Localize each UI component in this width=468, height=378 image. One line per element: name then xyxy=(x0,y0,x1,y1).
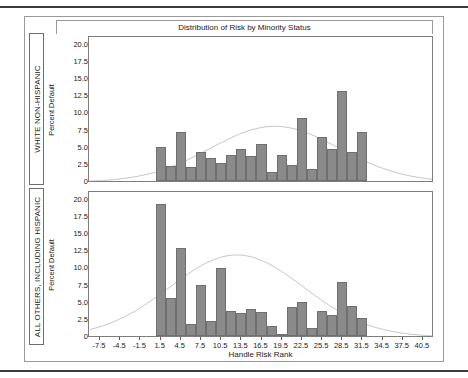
y-tick-label: 10.0 xyxy=(73,263,88,272)
histogram-bar xyxy=(236,149,246,181)
page-rule-top xyxy=(0,6,468,8)
x-tick-mark xyxy=(281,337,282,340)
x-tick-label: 16.5 xyxy=(253,341,268,350)
x-tick-label: 4.5 xyxy=(175,341,185,350)
x-tick-mark xyxy=(321,337,322,340)
plot-panel-white-non-hispanic xyxy=(88,36,433,182)
y-axis-title-text: Percent Default xyxy=(47,239,56,291)
histogram-bar xyxy=(337,282,347,336)
y-axis-ticks-bottom: 02.55.07.510.012.515.017.520.0 xyxy=(56,191,88,337)
x-tick-label: -1.5 xyxy=(133,341,146,350)
histogram-bar xyxy=(317,137,327,181)
y-tick-label: 2.5 xyxy=(78,314,88,323)
histogram-bar xyxy=(216,163,226,182)
x-tick-mark xyxy=(139,337,140,340)
x-tick-label: 40.5 xyxy=(415,341,430,350)
x-tick-label: 25.5 xyxy=(314,341,329,350)
y-axis-title-text: Percent Default xyxy=(47,84,56,136)
x-tick-label: 31.5 xyxy=(354,341,369,350)
y-tick-label: 10.0 xyxy=(73,108,88,117)
histogram-bar xyxy=(267,326,277,336)
y-tick-label: 15.0 xyxy=(73,229,88,238)
x-tick-mark xyxy=(382,337,383,340)
x-axis-title: Handle Risk Rank xyxy=(88,350,433,359)
x-tick-mark xyxy=(200,337,201,340)
histogram-bar xyxy=(287,165,297,181)
x-tick-label: 37.5 xyxy=(394,341,409,350)
x-tick-label: -4.5 xyxy=(113,341,126,350)
histogram-bar xyxy=(246,309,256,336)
histogram-bar xyxy=(347,152,357,181)
histogram-bar xyxy=(307,328,317,336)
histogram-bar xyxy=(206,321,216,336)
histogram-bar xyxy=(186,167,196,181)
histogram-bar xyxy=(267,172,277,181)
histogram-bar xyxy=(206,158,216,181)
histogram-bar xyxy=(156,204,166,336)
x-tick-label: 22.5 xyxy=(294,341,309,350)
x-tick-mark xyxy=(240,337,241,340)
histogram-bar xyxy=(196,152,206,181)
histogram-bar xyxy=(256,312,266,336)
histogram-bar xyxy=(156,147,166,181)
x-tick-mark xyxy=(402,337,403,340)
x-tick-mark xyxy=(160,337,161,340)
x-tick-mark xyxy=(180,337,181,340)
x-tick-mark xyxy=(99,337,100,340)
x-tick-label: 19.5 xyxy=(273,341,288,350)
histogram-bar xyxy=(327,315,337,336)
y-tick-label: 7.5 xyxy=(78,125,88,134)
histogram-bar xyxy=(176,132,186,181)
x-tick-mark xyxy=(301,337,302,340)
histogram-bar xyxy=(357,132,367,181)
x-tick-mark xyxy=(261,337,262,340)
y-tick-label: 2.5 xyxy=(78,159,88,168)
x-tick-label: 7.5 xyxy=(195,341,205,350)
chart-screenshot: Distribution of Risk by Minority Status … xyxy=(0,0,468,378)
histogram-bar xyxy=(327,149,337,181)
histogram-bar xyxy=(216,268,226,336)
y-tick-label: 5.0 xyxy=(78,297,88,306)
histogram-bar xyxy=(236,313,246,336)
histogram-bar xyxy=(317,311,327,336)
histogram-bar xyxy=(226,311,236,336)
plot-area-top xyxy=(89,37,432,181)
y-tick-label: 12.5 xyxy=(73,246,88,255)
histogram-bar xyxy=(196,285,206,336)
plot-panel-all-others xyxy=(88,191,433,337)
chart-title-bar: Distribution of Risk by Minority Status xyxy=(56,20,433,34)
y-tick-label: 12.5 xyxy=(73,91,88,100)
histogram-bar xyxy=(277,334,287,336)
x-tick-mark xyxy=(422,337,423,340)
plot-area-bottom xyxy=(89,192,432,336)
histogram-bar xyxy=(176,248,186,336)
x-tick-mark xyxy=(361,337,362,340)
histogram-bar xyxy=(226,155,236,181)
y-tick-label: 15.0 xyxy=(73,74,88,83)
x-tick-mark xyxy=(220,337,221,340)
x-tick-label: 1.5 xyxy=(154,341,164,350)
y-tick-label: 17.5 xyxy=(73,57,88,66)
y-axis-ticks-top: 02.55.07.510.012.515.017.520.0 xyxy=(56,36,88,182)
y-tick-label: 17.5 xyxy=(73,212,88,221)
histogram-bar xyxy=(357,318,367,336)
histogram-bar xyxy=(297,118,307,181)
histogram-bar xyxy=(347,306,357,336)
x-tick-label: 13.5 xyxy=(233,341,248,350)
histogram-bar xyxy=(186,324,196,336)
y-tick-label: 20.0 xyxy=(73,39,88,48)
y-tick-label: 20.0 xyxy=(73,194,88,203)
histogram-bar xyxy=(287,307,297,336)
histogram-bar xyxy=(337,91,347,181)
histogram-bar xyxy=(256,144,266,181)
y-tick-label: 7.5 xyxy=(78,280,88,289)
histogram-bar xyxy=(277,155,287,181)
histogram-bar xyxy=(246,156,256,181)
x-tick-label: -7.5 xyxy=(93,341,106,350)
histogram-bar xyxy=(307,169,317,181)
x-tick-label: 10.5 xyxy=(213,341,228,350)
x-tick-mark xyxy=(341,337,342,340)
y-tick-label: 5.0 xyxy=(78,142,88,151)
chart-title: Distribution of Risk by Minority Status xyxy=(57,21,432,35)
x-tick-label: 28.5 xyxy=(334,341,349,350)
